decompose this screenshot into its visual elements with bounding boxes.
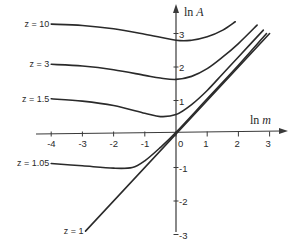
x-tick-label: 0 <box>178 138 183 149</box>
y-tick-label: 1 <box>179 96 184 107</box>
y-tick-label: -1 <box>179 163 187 174</box>
y-axis-title: ln A <box>184 5 204 19</box>
y-tick-label: -3 <box>179 230 187 241</box>
curve-label: z = 10 <box>24 19 49 29</box>
x-tick-label: 3 <box>266 138 271 149</box>
x-tick-label: -3 <box>78 138 86 149</box>
x-axis-title: ln m <box>250 113 271 127</box>
y-tick-label: -2 <box>179 196 187 207</box>
curve-label: z = 1 <box>64 226 84 236</box>
x-tick-label: 1 <box>203 138 208 149</box>
x-tick-label: 2 <box>234 138 239 149</box>
x-axis <box>36 131 282 134</box>
y-axis-arrow-icon <box>173 4 179 13</box>
curve-label: z = 1.5 <box>22 94 49 104</box>
curves <box>51 22 269 231</box>
x-tick-label: -4 <box>47 138 55 149</box>
y-tick-label: 2 <box>179 62 184 73</box>
curve-z3 <box>51 25 257 79</box>
x-tick-label: -1 <box>141 138 149 149</box>
x-ticks: -4-3-2-10123 <box>47 132 271 150</box>
curve-label: z = 1.05 <box>17 158 49 168</box>
x-tick-label: -2 <box>110 138 118 149</box>
x-axis-arrow-icon <box>279 128 288 134</box>
chart: -4-3-2-10123 321-1-2-3 z = 10z = 3z = 1.… <box>0 0 306 247</box>
curve-z10 <box>51 22 235 41</box>
curve-label: z = 3 <box>29 59 49 69</box>
curve-labels: z = 10z = 3z = 1.5z = 1.05z = 1 <box>17 19 84 236</box>
y-tick-label: 3 <box>179 29 184 40</box>
